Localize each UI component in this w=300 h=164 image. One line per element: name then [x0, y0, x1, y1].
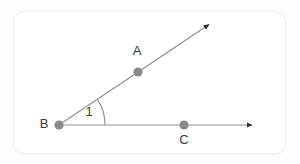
point-a-dot: [133, 67, 142, 76]
point-c-dot: [179, 120, 188, 129]
angle-label-1: 1: [85, 104, 92, 119]
angle-diagram: 1 B A C: [0, 0, 300, 164]
ray-ba: [59, 25, 209, 126]
vertex-b-dot: [54, 120, 63, 129]
point-a-label: A: [133, 43, 142, 58]
diagram-canvas: 1 B A C: [0, 0, 300, 164]
angle-arc: [98, 100, 105, 125]
point-c-label: C: [179, 132, 188, 147]
vertex-b-label: B: [40, 116, 49, 131]
